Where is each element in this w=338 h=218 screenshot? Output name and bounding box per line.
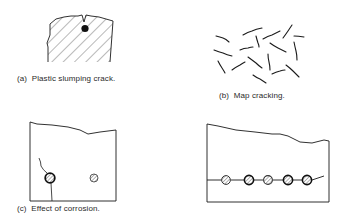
rebar-icon — [244, 175, 253, 184]
caption-c: (c) Effect of corrosion. — [17, 204, 100, 214]
crack-segment — [270, 43, 286, 52]
caption-b: (b) Map cracking. — [219, 91, 285, 101]
concrete-cracking-diagram — [0, 0, 338, 218]
crack-segment — [263, 31, 280, 39]
section-outline — [207, 124, 329, 202]
crack-segment — [286, 65, 299, 77]
crack-segment — [294, 42, 297, 60]
crack-segment — [294, 36, 304, 37]
crack-segment — [268, 54, 270, 70]
corrosion-crack-lower — [51, 183, 52, 201]
crack-segment — [253, 75, 266, 83]
section-outline — [30, 122, 116, 201]
crack-segment — [248, 57, 262, 68]
rebar-dot-icon — [81, 25, 88, 32]
corroded-rebar-icon — [45, 173, 55, 183]
rebar-icon — [264, 176, 273, 185]
figure-c-effect-of-corrosion — [30, 122, 116, 201]
crack-segment — [256, 36, 259, 47]
sound-rebar-icon — [90, 174, 98, 182]
hatched-concrete-section — [40, 10, 120, 66]
crack-segment — [214, 50, 232, 56]
crack-segment — [216, 36, 229, 42]
rebar-icon — [302, 175, 311, 184]
figure-b-map-cracking — [214, 25, 304, 83]
crack-segment — [243, 28, 262, 35]
crack-segment — [232, 62, 245, 70]
corrosion-crack-upper — [39, 158, 47, 173]
figure-a-plastic-slumping-crack — [40, 10, 120, 66]
crack-segment — [218, 61, 225, 73]
rebar-icon — [283, 175, 292, 184]
crack-segment — [272, 70, 285, 74]
crack-segment — [283, 25, 292, 38]
crack-segment — [240, 47, 253, 50]
caption-a: (a) Plastic slumping crack. — [17, 74, 115, 84]
rebar-icon — [222, 176, 231, 185]
figure-d-delamination — [207, 124, 329, 202]
